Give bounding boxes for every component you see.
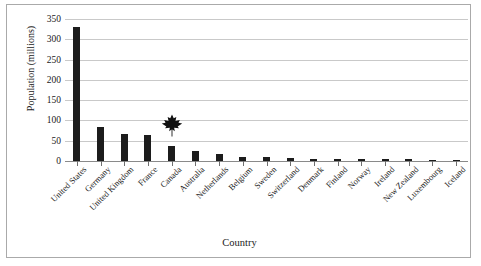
bar-netherlands[interactable] [207, 19, 231, 161]
bar-series [65, 19, 468, 161]
figure-frame: Population (millions) 350300250200150100… [6, 4, 471, 258]
y-tick-label: 100 [47, 115, 61, 125]
x-axis-title: Country [7, 237, 472, 248]
y-tick-label: 150 [47, 95, 61, 105]
bar-denmark[interactable] [302, 19, 326, 161]
bar-united-states[interactable] [65, 19, 89, 161]
y-axis-tick-labels: 350300250200150100500 [29, 13, 61, 169]
bar-finland[interactable] [326, 19, 350, 161]
y-tick-label: 300 [47, 34, 61, 44]
bar-rect [216, 154, 223, 161]
bar-rect [192, 151, 199, 161]
bar-new-zealand[interactable] [397, 19, 421, 161]
bar-rect [144, 135, 151, 161]
bar-canada[interactable] [160, 19, 184, 161]
y-tick-label: 50 [52, 136, 62, 146]
x-axis-tick-labels: United StatesGermanyUnited KingdomFrance… [65, 165, 468, 235]
bar-switzerland[interactable] [278, 19, 302, 161]
y-tick-label: 0 [56, 156, 61, 166]
plot-area [65, 19, 468, 161]
bar-luxembourg[interactable] [421, 19, 445, 161]
bar-belgium[interactable] [231, 19, 255, 161]
bar-united-kingdom[interactable] [112, 19, 136, 161]
bar-sweden[interactable] [255, 19, 279, 161]
bar-iceland[interactable] [444, 19, 468, 161]
bar-rect [168, 146, 175, 161]
bar-ireland[interactable] [373, 19, 397, 161]
bar-germany[interactable] [89, 19, 113, 161]
bar-rect [121, 134, 128, 161]
bar-france[interactable] [136, 19, 160, 161]
y-tick-label: 250 [47, 55, 61, 65]
y-tick-label: 200 [47, 75, 61, 85]
bar-norway[interactable] [349, 19, 373, 161]
y-tick-label: 350 [47, 14, 61, 24]
bar-australia[interactable] [184, 19, 208, 161]
maple-leaf-icon [161, 114, 183, 137]
bar-rect [73, 27, 80, 161]
bar-rect [97, 127, 104, 161]
